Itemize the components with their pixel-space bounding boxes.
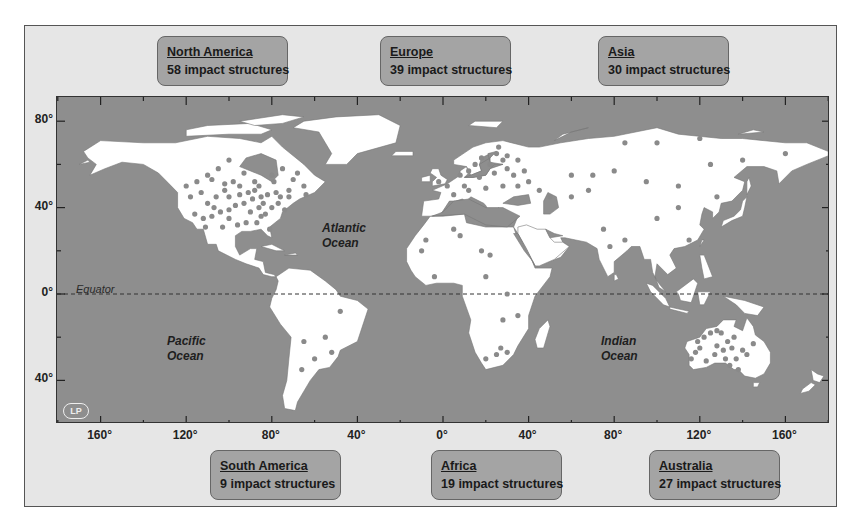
impact-structure-dot bbox=[494, 151, 499, 156]
impact-structure-dot bbox=[222, 181, 227, 186]
impact-structure-dot bbox=[445, 183, 450, 188]
impact-structure-dot bbox=[697, 136, 702, 141]
x-axis-label: 80° bbox=[593, 428, 633, 442]
impact-structure-dot bbox=[487, 253, 492, 258]
impact-structure-dot bbox=[291, 177, 296, 182]
impact-structure-dot bbox=[719, 330, 724, 335]
impact-structure-dot bbox=[256, 205, 261, 210]
region-box-australia: Australia27 impact structures bbox=[649, 450, 780, 500]
impact-structure-dot bbox=[727, 363, 732, 368]
impact-structure-dot bbox=[483, 356, 488, 361]
impact-structure-dot bbox=[704, 358, 709, 363]
impact-structure-dot bbox=[278, 194, 283, 199]
impact-structure-dot bbox=[286, 194, 291, 199]
impact-structure-dot bbox=[676, 205, 681, 210]
impact-structure-dot bbox=[226, 216, 231, 221]
impact-structure-dot bbox=[312, 356, 317, 361]
impact-structure-dot bbox=[723, 356, 728, 361]
region-box-south-america: South America9 impact structures bbox=[210, 450, 341, 500]
impact-structure-dot bbox=[526, 179, 531, 184]
impact-structure-dot bbox=[237, 192, 242, 197]
impact-structure-dot bbox=[273, 190, 278, 195]
impact-structure-dot bbox=[515, 313, 520, 318]
impact-structure-dot bbox=[654, 140, 659, 145]
impact-structure-dot bbox=[601, 227, 606, 232]
region-name: South America bbox=[220, 457, 340, 475]
impact-structure-dot bbox=[323, 335, 328, 340]
impact-structure-dot bbox=[231, 179, 236, 184]
impact-structure-dot bbox=[714, 194, 719, 199]
impact-structure-dot bbox=[607, 244, 612, 249]
impact-structure-dot bbox=[218, 209, 223, 214]
impact-structure-dot bbox=[203, 224, 208, 229]
pacific-ocean-label: Pacific Ocean bbox=[167, 334, 206, 364]
impact-structure-dot bbox=[269, 205, 274, 210]
impact-structure-dot bbox=[537, 188, 542, 193]
region-box-africa: Africa19 impact structures bbox=[431, 450, 562, 500]
impact-structure-dot bbox=[511, 173, 516, 178]
impact-structure-dot bbox=[744, 352, 749, 357]
impact-structure-dot bbox=[423, 237, 428, 242]
impact-structure-dot bbox=[267, 227, 272, 232]
world-map-canvas bbox=[57, 97, 829, 423]
impact-structure-dot bbox=[295, 170, 300, 175]
impact-structure-dot bbox=[505, 153, 510, 158]
impact-structure-dot bbox=[226, 207, 231, 212]
y-axis-label: 80° bbox=[24, 112, 53, 126]
impact-structure-dot bbox=[498, 345, 503, 350]
x-axis-label: 120° bbox=[679, 428, 719, 442]
indian-ocean-label: Indian Ocean bbox=[601, 334, 638, 364]
impact-structure-dot bbox=[303, 192, 308, 197]
impact-structure-dot bbox=[256, 183, 261, 188]
impact-structure-dot bbox=[725, 339, 730, 344]
impact-structure-dot bbox=[500, 157, 505, 162]
impact-structure-dot bbox=[244, 220, 249, 225]
impact-structure-dot bbox=[714, 343, 719, 348]
impact-structure-dot bbox=[226, 157, 231, 162]
impact-structure-dot bbox=[209, 177, 214, 182]
x-axis-label: 40° bbox=[508, 428, 548, 442]
impact-structure-dot bbox=[222, 188, 227, 193]
impact-structure-dot bbox=[721, 348, 726, 353]
x-axis-label: 160° bbox=[764, 428, 804, 442]
impact-structure-dot bbox=[252, 188, 257, 193]
impact-structure-dot bbox=[477, 175, 482, 180]
impact-structure-dot bbox=[265, 192, 270, 197]
impact-structure-dot bbox=[569, 194, 574, 199]
impact-structure-dot bbox=[731, 335, 736, 340]
world-map bbox=[56, 96, 829, 423]
region-box-north-america: North America58 impact structures bbox=[157, 36, 288, 86]
impact-structure-dot bbox=[246, 190, 251, 195]
impact-structure-dot bbox=[505, 166, 510, 171]
y-axis-label: 0° bbox=[24, 285, 53, 299]
impact-structure-dot bbox=[644, 179, 649, 184]
impact-structure-dot bbox=[729, 345, 734, 350]
impact-structure-dot bbox=[483, 274, 488, 279]
impact-structure-dot bbox=[458, 173, 463, 178]
region-count: 30 impact structures bbox=[608, 61, 728, 79]
impact-structure-dot bbox=[466, 168, 471, 173]
impact-structure-dot bbox=[547, 194, 552, 199]
impact-structure-dot bbox=[483, 186, 488, 191]
impact-structure-dot bbox=[695, 339, 700, 344]
impact-structure-dot bbox=[612, 168, 617, 173]
impact-structure-dot bbox=[338, 309, 343, 314]
impact-structure-dot bbox=[188, 194, 193, 199]
impact-structure-dot bbox=[220, 224, 225, 229]
impact-structure-dot bbox=[708, 162, 713, 167]
impact-structure-dot bbox=[492, 170, 497, 175]
impact-structure-dot bbox=[282, 207, 287, 212]
impact-structure-dot bbox=[329, 350, 334, 355]
impact-structure-dot bbox=[192, 211, 197, 216]
impact-structure-dot bbox=[419, 248, 424, 253]
region-name: Africa bbox=[441, 457, 561, 475]
impact-structure-dot bbox=[500, 317, 505, 322]
impact-structure-dot bbox=[734, 356, 739, 361]
pacific-line-2: Ocean bbox=[167, 349, 206, 364]
impact-structure-dot bbox=[505, 350, 510, 355]
impact-structure-dot bbox=[271, 179, 276, 184]
impact-structure-dot bbox=[248, 209, 253, 214]
impact-structure-dot bbox=[693, 350, 698, 355]
impact-structure-dot bbox=[259, 214, 264, 219]
region-name: Europe bbox=[390, 43, 510, 61]
